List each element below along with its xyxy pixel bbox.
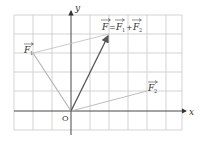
- y-axis-label: y: [74, 3, 81, 13]
- svg-text:F: F: [101, 22, 109, 32]
- svg-text:1: 1: [30, 50, 33, 56]
- svg-text:1: 1: [122, 27, 125, 33]
- svg-text:2: 2: [154, 88, 157, 94]
- origin-label: O: [62, 114, 69, 123]
- svg-text:+: +: [126, 23, 133, 32]
- svg-text:=: =: [109, 23, 116, 32]
- vector-f-resultant: [71, 36, 108, 111]
- svg-text:2: 2: [139, 27, 142, 33]
- vector-diagram: x y O F 1 F 2 F = F 1 + F 2: [0, 0, 205, 143]
- grid: [14, 15, 182, 130]
- resultant-equation-label: F = F 1 + F 2: [101, 19, 142, 34]
- x-axis-label: x: [189, 107, 194, 117]
- vector-label-f1: F 1: [23, 43, 34, 57]
- vector-label-f2: F 2: [147, 81, 158, 95]
